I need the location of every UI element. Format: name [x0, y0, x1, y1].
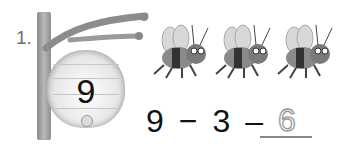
answer-input[interactable] [276, 101, 304, 140]
minus-sign: − [179, 103, 199, 140]
problem-number: 1. [16, 27, 32, 49]
hive-entrance [81, 115, 93, 127]
bee-icon [212, 10, 274, 80]
minuend: 9 [146, 103, 165, 140]
beehive-illustration: 9 [47, 50, 125, 128]
hive-count: 9 [47, 72, 125, 111]
subtrahend: 3 [212, 103, 231, 140]
answer-line [260, 136, 312, 138]
bee-icon [150, 10, 212, 80]
subtraction-equation: 9−3– [146, 103, 278, 140]
bee-icon [274, 10, 336, 80]
hive-ridge [53, 64, 119, 65]
equals-dash: – [245, 103, 264, 140]
